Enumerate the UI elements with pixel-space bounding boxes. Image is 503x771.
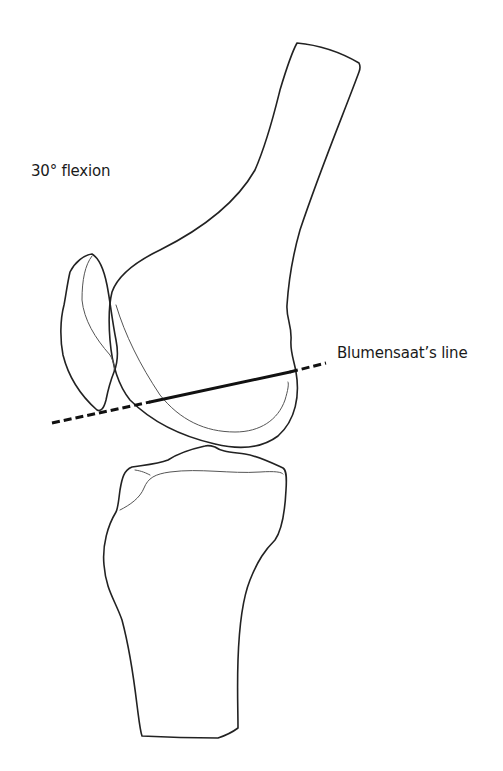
blumensaat-line-solid <box>150 372 290 402</box>
tibia <box>104 446 287 738</box>
knee-diagram: 30° flexion Blumensaat’s line <box>0 0 503 771</box>
blumensaat-line-label: Blumensaat’s line <box>337 344 467 362</box>
femur <box>109 43 360 447</box>
blumensaat-line <box>52 363 326 423</box>
blumensaat-line-dashed-left <box>52 402 150 423</box>
flexion-angle-label: 30° flexion <box>31 162 110 180</box>
knee-illustration <box>0 0 503 771</box>
